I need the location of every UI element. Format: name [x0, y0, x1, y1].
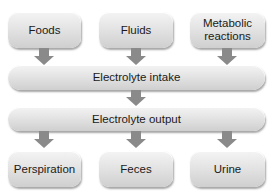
- feces-box: Feces: [99, 151, 173, 187]
- foods-label: Foods: [29, 24, 61, 37]
- fluids-label: Fluids: [121, 24, 152, 37]
- fluids-box: Fluids: [99, 12, 173, 48]
- foods-box: Foods: [8, 12, 81, 48]
- feces-label: Feces: [120, 163, 151, 176]
- electrolyte-output-label: Electrolyte output: [92, 113, 181, 126]
- electrolyte-output-bar: Electrolyte output: [8, 107, 265, 131]
- urine-box: Urine: [190, 151, 265, 187]
- metabolic-reactions-label: Metabolic reactions: [198, 17, 258, 43]
- urine-label: Urine: [214, 163, 241, 176]
- perspiration-label: Perspiration: [14, 163, 75, 176]
- metabolic-reactions-box: Metabolic reactions: [190, 12, 265, 48]
- electrolyte-intake-label: Electrolyte intake: [93, 71, 181, 84]
- electrolyte-intake-bar: Electrolyte intake: [8, 65, 265, 90]
- perspiration-box: Perspiration: [8, 151, 81, 187]
